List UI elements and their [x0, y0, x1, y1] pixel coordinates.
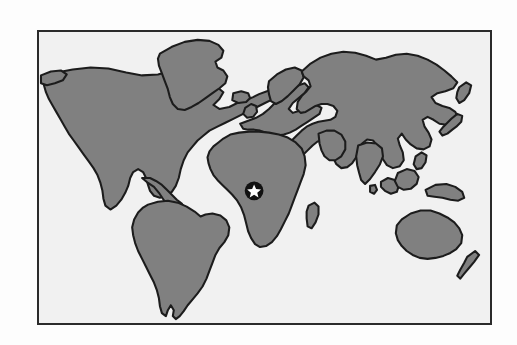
landmass-arabia — [319, 131, 346, 161]
landmass-sri-lanka — [370, 185, 377, 194]
landmass-australia — [396, 211, 462, 259]
landmass-kamchatka — [456, 82, 471, 103]
landmass-madagascar — [307, 203, 319, 229]
landmass-south-america — [132, 201, 229, 319]
location-star-marker[interactable] — [245, 181, 264, 200]
landmass-philippines — [414, 152, 427, 169]
landmass-iceland — [232, 91, 250, 103]
landmass-borneo — [395, 169, 419, 190]
map-frame-border — [37, 30, 492, 325]
world-map-svg — [39, 32, 490, 323]
landmass-india — [356, 142, 383, 183]
landmass-new-guinea — [426, 184, 465, 201]
world-map-figure — [0, 0, 517, 345]
landmass-new-zealand — [457, 251, 479, 279]
